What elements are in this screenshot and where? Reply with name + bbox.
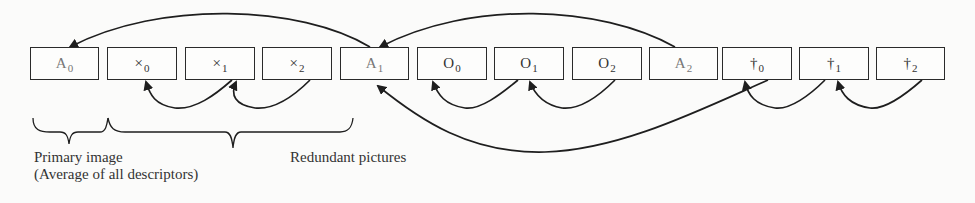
box-A2-sub: 2 <box>687 62 693 74</box>
box-x0: ×0 <box>107 47 177 80</box>
box-x0-base: × <box>135 55 143 72</box>
box-o1: O1 <box>494 47 564 80</box>
box-t0: †0 <box>722 47 792 80</box>
arrow-x1-to-x0 <box>146 80 232 108</box>
box-o1-sub: 1 <box>532 62 538 74</box>
redundant-pictures-title: Redundant pictures <box>290 149 406 166</box>
arrow-o2-to-o1 <box>530 80 615 108</box>
box-x2: ×2 <box>262 47 332 80</box>
box-x1: ×1 <box>185 47 255 80</box>
box-o2-base: O <box>598 55 609 72</box>
box-A2-base: A <box>675 55 686 72</box>
box-o2-sub: 2 <box>610 62 616 74</box>
box-x1-sub: 1 <box>222 62 228 74</box>
arrow-A2-to-A1 <box>380 14 675 47</box>
box-t2-base: † <box>904 55 912 72</box>
box-A2: A2 <box>649 47 718 80</box>
label-redundant-pictures: Redundant pictures <box>290 149 406 166</box>
descriptor-chain-diagram: A0 ×0 ×1 ×2 A1 O0 O1 O2 A2 †0 †1 †2 Prim… <box>0 0 975 203</box>
box-x0-sub: 0 <box>144 62 150 74</box>
box-A0-base: A <box>56 55 67 72</box>
label-primary-image: Primary image (Average of all descriptor… <box>34 149 198 183</box>
arrow-x2-to-x1 <box>234 80 310 108</box>
primary-image-title: Primary image <box>34 149 198 166</box>
box-x1-base: × <box>213 55 221 72</box>
box-t1-base: † <box>827 55 835 72</box>
box-A1-base: A <box>366 55 377 72</box>
arrow-o1-to-o0 <box>433 80 518 108</box>
box-A1: A1 <box>340 47 409 80</box>
box-o2: O2 <box>572 47 642 80</box>
arrow-t2-to-t1 <box>838 80 922 108</box>
brace-primary-image <box>33 118 108 144</box>
primary-image-note: (Average of all descriptors) <box>34 166 198 183</box>
box-t1: †1 <box>799 47 869 80</box>
box-t1-sub: 1 <box>836 62 842 74</box>
arrow-A1-to-A0 <box>70 14 370 47</box>
box-o0-base: O <box>443 55 454 72</box>
box-x2-sub: 2 <box>299 62 305 74</box>
box-t0-sub: 0 <box>759 62 765 74</box>
box-o0-sub: 0 <box>455 62 461 74</box>
brace-redundant-pictures <box>108 118 353 148</box>
box-o1-base: O <box>520 55 531 72</box>
box-A0-sub: 0 <box>68 62 74 74</box>
box-t2-sub: 2 <box>912 62 918 74</box>
box-x2-base: × <box>290 55 298 72</box>
box-t0-base: † <box>750 55 758 72</box>
box-t2: †2 <box>876 47 945 80</box>
box-o0: O0 <box>417 47 487 80</box>
box-A1-sub: 1 <box>378 62 384 74</box>
box-A0: A0 <box>30 47 99 80</box>
